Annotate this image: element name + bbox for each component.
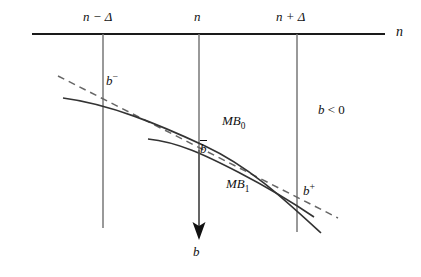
note-b-less-than-zero: b < 0	[318, 103, 345, 116]
point-label-b-minus: b−	[106, 72, 118, 87]
tick-label-n-text: n	[194, 9, 201, 24]
tick-label-n-minus-delta-text: n − Δ	[83, 9, 112, 24]
curve-label-mb0-subscript: 0	[241, 121, 246, 131]
curve-label-mb0: MB0	[222, 114, 245, 131]
curve-mb0	[63, 98, 321, 233]
tick-label-n-plus-delta: n + Δ	[276, 10, 305, 23]
curve-label-mb0-base: MB	[222, 113, 241, 128]
tick-label-n-minus-delta: n − Δ	[83, 10, 112, 23]
tick-label-n: n	[194, 10, 201, 23]
arrow-label-b: b	[193, 245, 200, 258]
note-b-less-than-zero-relation: < 0	[325, 102, 345, 117]
point-label-b-plus: b+	[303, 182, 315, 197]
diagram-canvas	[0, 0, 421, 277]
arrow-label-b-text: b	[193, 244, 200, 259]
axis-name-n: n	[396, 25, 403, 39]
point-label-b-bar-base: b	[200, 141, 207, 155]
dashed-tangent-line	[58, 76, 338, 218]
tick-label-n-plus-delta-text: n + Δ	[276, 9, 305, 24]
point-label-b-bar: b	[200, 141, 207, 155]
point-label-b-minus-superscript: −	[113, 71, 119, 82]
point-label-b-plus-superscript: +	[310, 181, 316, 192]
axis-name-text: n	[396, 24, 403, 39]
marginal-benefit-diagram: n − Δ n n + Δ n b− b b+ MB0 MB1 b < 0 b	[0, 0, 421, 277]
curve-label-mb1-base: MB	[226, 176, 245, 191]
curve-label-mb1-subscript: 1	[245, 184, 250, 194]
curve-label-mb1: MB1	[226, 177, 249, 194]
